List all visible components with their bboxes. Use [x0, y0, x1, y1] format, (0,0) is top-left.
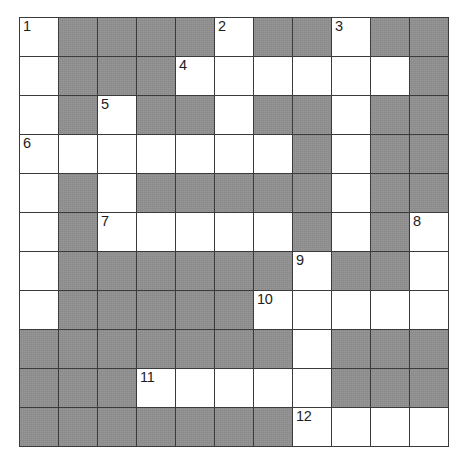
crossword-cell-blocked-r11c7: [254, 408, 293, 447]
crossword-cell-open-r4c9[interactable]: [332, 135, 371, 174]
crossword-cell-open-r11c11[interactable]: [410, 408, 449, 447]
crossword-cell-open-r4c4[interactable]: [137, 135, 176, 174]
crossword-cell-blocked-r7c9: [332, 252, 371, 291]
crossword-cell-blocked-r3c7: [254, 96, 293, 135]
crossword-cell-blocked-r2c4: [137, 57, 176, 96]
crossword-cell-open-r10c7[interactable]: [254, 369, 293, 408]
crossword-cell-open-r6c7[interactable]: [254, 213, 293, 252]
crossword-cell-open-r3c3[interactable]: 5: [98, 96, 137, 135]
crossword-cell-blocked-r7c2: [59, 252, 98, 291]
crossword-cell-blocked-r1c11: [410, 18, 449, 57]
crossword-cell-open-r11c8[interactable]: 12: [293, 408, 332, 447]
crossword-cell-open-r1c6[interactable]: 2: [215, 18, 254, 57]
crossword-cell-open-r8c9[interactable]: [332, 291, 371, 330]
crossword-cell-open-r11c9[interactable]: [332, 408, 371, 447]
crossword-cell-open-r8c8[interactable]: [293, 291, 332, 330]
crossword-cell-blocked-r3c10: [371, 96, 410, 135]
crossword-cell-blocked-r9c7: [254, 330, 293, 369]
crossword-cell-open-r4c6[interactable]: [215, 135, 254, 174]
crossword-cell-open-r4c1[interactable]: 6: [20, 135, 59, 174]
crossword-cell-blocked-r4c11: [410, 135, 449, 174]
crossword-cell-open-r8c7[interactable]: 10: [254, 291, 293, 330]
crossword-cell-blocked-r6c8: [293, 213, 332, 252]
crossword-cell-open-r6c9[interactable]: [332, 213, 371, 252]
clue-number-8: 8: [413, 213, 421, 230]
crossword-cell-blocked-r1c2: [59, 18, 98, 57]
crossword-cell-blocked-r7c5: [176, 252, 215, 291]
crossword-cell-blocked-r5c6: [215, 174, 254, 213]
crossword-cell-blocked-r11c4: [137, 408, 176, 447]
crossword-cell-blocked-r10c3: [98, 369, 137, 408]
crossword-cell-open-r7c11[interactable]: [410, 252, 449, 291]
crossword-cell-open-r10c4[interactable]: 11: [137, 369, 176, 408]
crossword-cell-blocked-r6c2: [59, 213, 98, 252]
crossword-cell-open-r2c7[interactable]: [254, 57, 293, 96]
crossword-cell-open-r6c6[interactable]: [215, 213, 254, 252]
crossword-cell-open-r5c9[interactable]: [332, 174, 371, 213]
crossword-cell-open-r10c8[interactable]: [293, 369, 332, 408]
crossword-cell-open-r6c11[interactable]: 8: [410, 213, 449, 252]
crossword-cell-open-r4c3[interactable]: [98, 135, 137, 174]
crossword-cell-open-r6c1[interactable]: [20, 213, 59, 252]
crossword-cell-blocked-r10c10: [371, 369, 410, 408]
crossword-cell-open-r2c9[interactable]: [332, 57, 371, 96]
crossword-grid: 123456789101112: [19, 17, 449, 447]
crossword-cell-blocked-r1c7: [254, 18, 293, 57]
crossword-cell-open-r10c6[interactable]: [215, 369, 254, 408]
clue-number-5: 5: [101, 96, 109, 113]
crossword-cell-blocked-r3c2: [59, 96, 98, 135]
crossword-cell-open-r5c1[interactable]: [20, 174, 59, 213]
crossword-cell-open-r8c10[interactable]: [371, 291, 410, 330]
crossword-cell-open-r7c1[interactable]: [20, 252, 59, 291]
crossword-cell-open-r1c1[interactable]: 1: [20, 18, 59, 57]
crossword-cell-blocked-r3c4: [137, 96, 176, 135]
crossword-cell-open-r4c2[interactable]: [59, 135, 98, 174]
crossword-cell-open-r1c9[interactable]: 3: [332, 18, 371, 57]
crossword-cell-blocked-r11c6: [215, 408, 254, 447]
crossword-cell-open-r2c10[interactable]: [371, 57, 410, 96]
crossword-cell-blocked-r4c8: [293, 135, 332, 174]
crossword-cell-open-r8c11[interactable]: [410, 291, 449, 330]
crossword-cell-open-r3c6[interactable]: [215, 96, 254, 135]
crossword-cell-blocked-r10c9: [332, 369, 371, 408]
clue-number-10: 10: [257, 291, 273, 308]
crossword-cell-blocked-r9c1: [20, 330, 59, 369]
crossword-cell-open-r6c5[interactable]: [176, 213, 215, 252]
crossword-cell-open-r10c5[interactable]: [176, 369, 215, 408]
crossword-cell-blocked-r11c3: [98, 408, 137, 447]
crossword-cell-open-r2c5[interactable]: 4: [176, 57, 215, 96]
crossword-cell-blocked-r8c3: [98, 291, 137, 330]
crossword-cell-open-r2c8[interactable]: [293, 57, 332, 96]
crossword-cell-blocked-r8c6: [215, 291, 254, 330]
crossword-cell-open-r2c1[interactable]: [20, 57, 59, 96]
crossword-cell-blocked-r7c4: [137, 252, 176, 291]
crossword-cell-blocked-r2c2: [59, 57, 98, 96]
crossword-cell-blocked-r9c4: [137, 330, 176, 369]
crossword-cell-open-r11c10[interactable]: [371, 408, 410, 447]
crossword-cell-open-r2c6[interactable]: [215, 57, 254, 96]
crossword-cell-blocked-r4c10: [371, 135, 410, 174]
crossword-cell-open-r3c9[interactable]: [332, 96, 371, 135]
crossword-cell-blocked-r1c8: [293, 18, 332, 57]
crossword-cell-open-r8c1[interactable]: [20, 291, 59, 330]
crossword-cell-blocked-r11c2: [59, 408, 98, 447]
crossword-cell-blocked-r8c2: [59, 291, 98, 330]
crossword-cell-blocked-r9c9: [332, 330, 371, 369]
crossword-cell-blocked-r10c1: [20, 369, 59, 408]
crossword-cell-open-r5c3[interactable]: [98, 174, 137, 213]
crossword-cell-open-r4c5[interactable]: [176, 135, 215, 174]
crossword-cell-open-r7c8[interactable]: 9: [293, 252, 332, 291]
crossword-cell-open-r6c3[interactable]: 7: [98, 213, 137, 252]
crossword-cell-blocked-r9c11: [410, 330, 449, 369]
crossword-cell-blocked-r1c10: [371, 18, 410, 57]
crossword-cell-open-r3c1[interactable]: [20, 96, 59, 135]
crossword-cell-open-r6c4[interactable]: [137, 213, 176, 252]
crossword-cell-blocked-r5c8: [293, 174, 332, 213]
clue-number-11: 11: [140, 369, 155, 386]
crossword-cell-open-r9c8[interactable]: [293, 330, 332, 369]
crossword-cell-blocked-r3c11: [410, 96, 449, 135]
crossword-cell-blocked-r1c5: [176, 18, 215, 57]
crossword-cell-blocked-r5c2: [59, 174, 98, 213]
crossword-cell-open-r4c7[interactable]: [254, 135, 293, 174]
crossword-cell-blocked-r9c3: [98, 330, 137, 369]
